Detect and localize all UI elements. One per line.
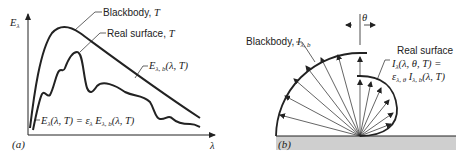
ground-surface xyxy=(276,136,456,150)
blackbody-leader xyxy=(75,12,102,30)
panel-a: Eλ λ (a) Blackbody, T Real surface, T Eλ… xyxy=(9,7,215,151)
blackbody-rays xyxy=(280,55,360,136)
real-surface-equation: Eλ(λ, T) = ελ Eλ, b(λ, T) xyxy=(40,115,135,128)
x-axis-label: λ xyxy=(209,140,215,151)
blackbody-hemisphere xyxy=(276,53,367,136)
eb-leader xyxy=(135,66,148,78)
panel-b: θ Blackbody, Iλ, b Real xyxy=(246,12,456,151)
theta-label: θ xyxy=(362,12,367,23)
real-surface-title: Real surface xyxy=(397,45,454,56)
radiation-diagram: Eλ λ (a) Blackbody, T Real surface, T Eλ… xyxy=(0,0,466,161)
real-b-leader xyxy=(377,60,390,80)
real-intensity-eq-line1: Iλ(λ, θ, T) = xyxy=(391,58,441,71)
real-surface-lobe xyxy=(357,76,397,136)
panel-b-label: (b) xyxy=(278,138,291,151)
blackbody-label: Blackbody, T xyxy=(103,7,161,18)
y-axis-label: Eλ xyxy=(9,17,19,30)
real-surface-label: Real surface, T xyxy=(107,28,176,39)
blackbody-intensity-label: Blackbody, Iλ, b xyxy=(246,36,311,49)
real-intensity-eq-line2: ελ, θ Iλ, b(λ, T) xyxy=(392,71,445,84)
blackbody-equation: Eλ, b(λ, T) xyxy=(148,60,189,73)
panel-a-label: (a) xyxy=(12,138,25,151)
